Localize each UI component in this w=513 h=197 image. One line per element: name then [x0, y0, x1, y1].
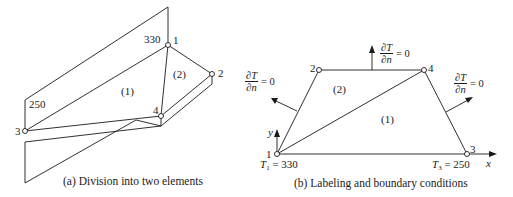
x-axis-label: x [486, 158, 491, 169]
fig-a-caption: (a) Division into two elements [63, 176, 203, 188]
right-flux-condition: ∂T∂n = 0 [454, 72, 484, 95]
flux-denominator: ∂n [246, 82, 256, 93]
flux-numerator: ∂T [245, 70, 258, 82]
fig-b-node-2-marker [317, 68, 322, 73]
top-normal-arrowhead [369, 45, 375, 53]
fig-a-node-2-marker [210, 72, 215, 77]
flux-value: = 0 [470, 78, 484, 89]
fig-a-node-2-label: 2 [218, 68, 224, 79]
fig-b-node-3-label: 3 [470, 144, 476, 155]
flux-denominator: ∂n [381, 54, 391, 65]
fig-a-node-4-label: 4 [153, 105, 159, 116]
y-axis-arrowhead [274, 129, 280, 137]
fig-b-node-3-marker [465, 152, 470, 157]
flux-value: = 0 [396, 48, 410, 59]
fig-b-node-2-label: 2 [310, 63, 316, 74]
flux-numerator: ∂T [454, 72, 467, 84]
fig-b-node-1-marker [275, 152, 280, 157]
fig-b-element-1-label: (1) [381, 114, 394, 125]
fig-a-node-3-label: 3 [15, 126, 21, 137]
fig-b-element-2-label: (2) [333, 84, 346, 95]
fig-a-node-1-label: 1 [173, 35, 179, 46]
fig-b-node-4-marker [422, 68, 427, 73]
flux-denominator: ∂n [455, 84, 465, 95]
fig-a-element-1-label: (1) [121, 86, 134, 97]
flux-numerator: ∂T [380, 42, 393, 54]
fig-a-node-3-value: 250 [29, 99, 46, 110]
right-normal-arrowhead [465, 97, 473, 103]
figure-b-drawing [276, 50, 492, 154]
fig-a-node-3-marker [23, 129, 28, 134]
t1-boundary-condition: T1 = 330 [260, 159, 298, 172]
t3-boundary-condition: T3 = 250 [432, 159, 470, 172]
t3-value: = 250 [444, 158, 469, 170]
figure-a-drawing [25, 7, 212, 183]
fig-a-element-2-label: (2) [173, 69, 186, 80]
t1-subscript: 1 [266, 164, 270, 172]
fig-b-node-4-label: 4 [428, 63, 434, 74]
t1-value: = 330 [272, 158, 297, 170]
fig-b-caption: (b) Labeling and boundary conditions [294, 178, 468, 190]
top-flux-condition: ∂T∂n = 0 [380, 42, 410, 65]
t3-subscript: 3 [438, 164, 442, 172]
fig-a-node-1-value: 330 [144, 34, 161, 45]
fig-a-node-4-marker [159, 114, 164, 119]
flux-value: = 0 [261, 76, 275, 87]
left-flux-condition: ∂T∂n = 0 [245, 70, 275, 93]
fig-a-node-1-marker [166, 43, 171, 48]
y-axis-label: y [268, 127, 273, 138]
